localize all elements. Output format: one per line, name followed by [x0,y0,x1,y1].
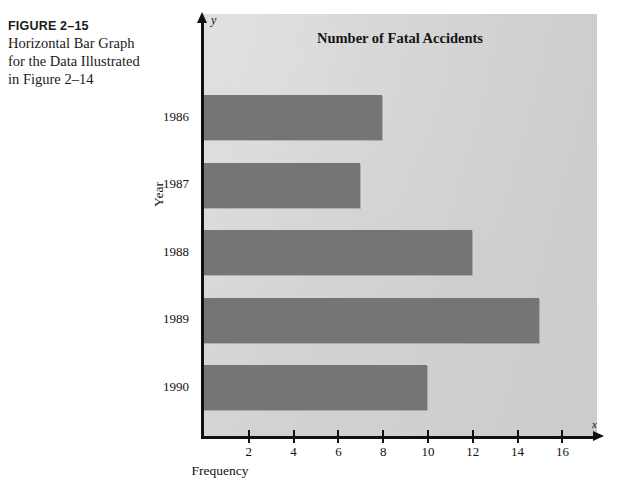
x-axis-symbol: x [592,418,597,430]
y-tick-label-1986: 1986 [129,109,189,125]
bar-1988 [203,230,472,275]
x-tick-14 [517,430,519,443]
x-tick-12 [472,430,474,443]
x-tick-label-2: 2 [229,444,269,460]
x-tick-label-4: 4 [274,444,314,460]
figure-caption-line-2: for the Data Illustrated [8,52,178,70]
y-axis-arrow-icon [197,12,207,23]
y-axis-title: Year [151,182,167,207]
x-tick-4 [293,430,295,443]
x-tick-label-14: 14 [498,444,538,460]
x-tick-10 [427,430,429,443]
x-tick-16 [561,430,563,443]
bar-1989 [203,298,539,343]
x-tick-6 [337,430,339,443]
x-axis-title: Frequency [0,463,440,479]
figure-number: FIGURE 2–15 [8,18,178,34]
x-axis-arrow-icon [593,431,604,441]
y-axis-symbol: y [211,13,216,28]
x-tick-8 [382,430,384,443]
x-tick-label-8: 8 [363,444,403,460]
chart-title: Number of Fatal Accidents [203,30,597,47]
y-tick-label-1990: 1990 [129,379,189,395]
bar-1990 [203,365,427,410]
x-axis-line [201,436,594,439]
y-tick-label-1989: 1989 [129,311,189,327]
x-tick-2 [248,430,250,443]
bar-1987 [203,163,360,208]
figure-caption-line-1: Horizontal Bar Graph [8,34,178,52]
bar-1986 [203,95,382,140]
figure-caption-line-3: in Figure 2–14 [8,70,178,88]
figure-page: FIGURE 2–15 Horizontal Bar Graph for the… [0,0,631,492]
x-tick-label-6: 6 [318,444,358,460]
y-tick-label-1988: 1988 [129,244,189,260]
figure-caption: FIGURE 2–15 Horizontal Bar Graph for the… [8,18,178,88]
x-tick-label-12: 12 [453,444,493,460]
x-tick-label-16: 16 [542,444,582,460]
x-tick-label-10: 10 [408,444,448,460]
y-axis-line [201,22,204,439]
